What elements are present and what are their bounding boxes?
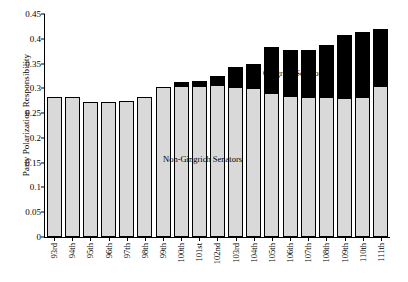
bar-segment-non-gingrich (246, 88, 261, 237)
x-tick-mark (326, 237, 327, 241)
x-tick-mark (381, 237, 382, 241)
bar-segment-non-gingrich (101, 102, 116, 237)
x-tick-label: 105th (267, 243, 277, 262)
bar-segment-gingrich (246, 64, 261, 89)
x-tick-mark (72, 237, 73, 241)
x-tick-mark (163, 237, 164, 241)
x-tick-mark (54, 237, 55, 241)
bar-group: 95th (83, 14, 98, 237)
x-tick-label: 100th (176, 243, 186, 262)
non-gingrich-senators-label: Non-Gingrich Senators (163, 154, 242, 164)
bar-segment-non-gingrich (65, 97, 80, 237)
x-tick-mark (254, 237, 255, 241)
bar-segment-non-gingrich (355, 97, 370, 237)
bar-segment-non-gingrich (373, 86, 388, 237)
x-tick-label: 99th (158, 243, 168, 258)
bar-group: 100th (174, 14, 189, 237)
bars-container: 93rd94th95th96th97th98th99th100th101st10… (45, 14, 390, 237)
x-tick-mark (363, 237, 364, 241)
bar-group: 108th (319, 14, 334, 237)
x-tick-mark (127, 237, 128, 241)
x-tick-mark (236, 237, 237, 241)
bar-segment-non-gingrich (337, 98, 352, 237)
bar-group: 107th (301, 14, 316, 237)
x-tick-mark (290, 237, 291, 241)
x-tick-label: 111th (376, 243, 386, 262)
bar-segment-gingrich (355, 32, 370, 96)
bar-group: 102nd (210, 14, 225, 237)
x-tick-label: 108th (321, 243, 331, 262)
gingrich-senators-label: Gingrich Senators (263, 68, 325, 78)
bar-group: 101st (192, 14, 207, 237)
x-tick-label: 95th (85, 243, 95, 258)
bar-group: 94th (65, 14, 80, 237)
x-tick-mark (272, 237, 273, 241)
x-tick-mark (145, 237, 146, 241)
bar-segment-non-gingrich (301, 97, 316, 237)
x-tick-label: 102nd (212, 243, 222, 264)
bar-segment-gingrich (373, 29, 388, 86)
bar-group: 96th (101, 14, 116, 237)
x-tick-mark (90, 237, 91, 241)
x-tick-label: 109th (340, 243, 350, 262)
bar-segment-non-gingrich (137, 97, 152, 237)
bar-group: 98th (137, 14, 152, 237)
x-tick-label: 106th (285, 243, 295, 262)
bar-segment-gingrich (337, 35, 352, 98)
x-tick-label: 104th (249, 243, 259, 262)
bar-segment-non-gingrich (264, 93, 279, 237)
x-tick-label: 97th (122, 243, 132, 258)
bar-segment-gingrich (228, 67, 243, 87)
bar-group: 109th (337, 14, 352, 237)
bar-segment-non-gingrich (319, 97, 334, 237)
bar-segment-gingrich (210, 76, 225, 85)
x-tick-label: 96th (104, 243, 114, 258)
x-tick-mark (345, 237, 346, 241)
x-tick-label: 94th (67, 243, 77, 258)
x-tick-label: 107th (303, 243, 313, 262)
bar-group: 110th (355, 14, 370, 237)
bar-segment-non-gingrich (119, 101, 134, 237)
x-tick-label: 110th (358, 243, 368, 262)
bar-segment-non-gingrich (83, 102, 98, 237)
x-tick-mark (181, 237, 182, 241)
x-tick-label: 93rd (49, 243, 59, 259)
bar-group: 99th (156, 14, 171, 237)
party-polarization-bar-chart: Party Polarization Responsibility 00.050… (0, 0, 408, 282)
x-tick-label: 98th (140, 243, 150, 258)
x-tick-mark (199, 237, 200, 241)
bar-group: 104th (246, 14, 261, 237)
x-tick-mark (217, 237, 218, 241)
plot-area: 00.050.10.150.20.250.30.350.40.45 93rd94… (44, 14, 390, 238)
bar-group: 111th (373, 14, 388, 237)
x-tick-label: 103rd (231, 243, 241, 263)
bar-group: 103rd (228, 14, 243, 237)
bar-group: 97th (119, 14, 134, 237)
bar-group: 106th (283, 14, 298, 237)
bar-segment-non-gingrich (283, 96, 298, 237)
x-tick-mark (109, 237, 110, 241)
bar-segment-non-gingrich (47, 97, 62, 237)
bar-group: 93rd (47, 14, 62, 237)
x-tick-mark (308, 237, 309, 241)
bar-group: 105th (264, 14, 279, 237)
x-tick-label: 101st (194, 243, 204, 261)
